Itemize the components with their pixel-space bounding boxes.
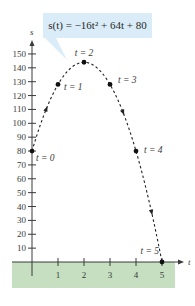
- svg-text:150: 150: [13, 49, 27, 59]
- svg-text:1: 1: [56, 270, 61, 280]
- point-label: t = 2: [75, 48, 94, 58]
- equation-callout: s(t) = −16t² + 64t + 80: [43, 13, 152, 38]
- data-point: [108, 82, 113, 87]
- svg-text:10: 10: [17, 243, 27, 253]
- svg-text:s: s: [30, 27, 34, 37]
- svg-text:40: 40: [17, 202, 27, 212]
- svg-text:130: 130: [13, 77, 27, 87]
- svg-text:100: 100: [13, 118, 27, 128]
- svg-text:90: 90: [17, 132, 27, 142]
- svg-text:2: 2: [82, 270, 87, 280]
- point-label: t = 4: [144, 145, 163, 155]
- data-point: [82, 60, 87, 65]
- svg-text:5: 5: [160, 270, 165, 280]
- data-point: [30, 149, 35, 154]
- chart-canvas: ts 102030405060708090100110120130140150 …: [0, 0, 195, 306]
- svg-text:4: 4: [134, 270, 139, 280]
- svg-text:50: 50: [17, 188, 27, 198]
- point-label: t = 1: [64, 82, 83, 92]
- svg-text:120: 120: [13, 91, 27, 101]
- equation-text: s(t) = −16t² + 64t + 80: [48, 19, 146, 31]
- svg-text:110: 110: [13, 104, 27, 114]
- svg-text:80: 80: [17, 146, 27, 156]
- svg-text:3: 3: [108, 270, 113, 280]
- svg-text:60: 60: [17, 174, 27, 184]
- data-point: [160, 260, 165, 265]
- svg-text:20: 20: [17, 229, 27, 239]
- point-label: t = 3: [118, 75, 137, 85]
- data-points: t = 0t = 1t = 2t = 3t = 4t = 5: [30, 48, 165, 264]
- callout-tail: [45, 38, 67, 60]
- point-label: t = 0: [36, 153, 55, 163]
- point-label: t = 5: [140, 246, 159, 256]
- axes: ts: [12, 27, 191, 276]
- data-point: [56, 82, 61, 87]
- svg-text:140: 140: [13, 63, 27, 73]
- ground-band: [12, 262, 175, 288]
- data-point: [134, 149, 139, 154]
- svg-text:t: t: [188, 257, 191, 267]
- svg-text:30: 30: [17, 215, 27, 225]
- svg-text:70: 70: [17, 160, 27, 170]
